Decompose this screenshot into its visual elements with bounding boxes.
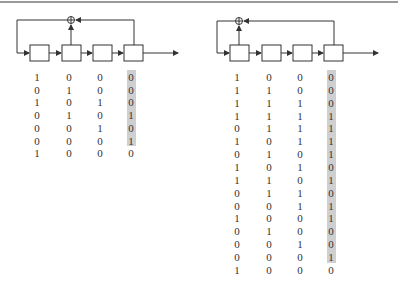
right-lfsr [217, 18, 378, 62]
table-cell: 1 [263, 174, 275, 186]
left-stage-3 [93, 45, 112, 61]
table-cell: 0 [63, 71, 75, 83]
table-cell: 0 [325, 225, 337, 237]
table-cell: 1 [231, 84, 243, 96]
table-cell: 1 [294, 187, 306, 199]
table-cell: 1 [294, 122, 306, 134]
table-cell: 0 [294, 174, 306, 186]
left-stage-2 [62, 45, 81, 61]
table-cell: 1 [231, 161, 243, 173]
table-cell: 1 [325, 251, 337, 263]
table-cell: 1 [294, 110, 306, 122]
table-cell: 0 [63, 96, 75, 108]
table-cell: 0 [263, 200, 275, 212]
table-cell: 1 [294, 97, 306, 109]
table-cell: 1 [231, 110, 243, 122]
table-cell: 0 [63, 135, 75, 147]
table-cell: 0 [94, 71, 106, 83]
table-cell: 0 [125, 84, 137, 96]
table-cell: 1 [31, 96, 43, 108]
table-cell: 1 [125, 109, 137, 121]
table-cell: 0 [231, 251, 243, 263]
table-cell: 1 [325, 135, 337, 147]
table-cell: 0 [125, 122, 137, 134]
table-cell: 0 [325, 71, 337, 83]
table-cell: 0 [294, 225, 306, 237]
table-cell: 1 [325, 212, 337, 224]
table-cell: 0 [63, 122, 75, 134]
table-cell: 1 [231, 135, 243, 147]
table-cell: 0 [263, 264, 275, 276]
table-cell: 1 [94, 96, 106, 108]
table-cell: 0 [63, 147, 75, 159]
table-cell: 1 [325, 148, 337, 160]
table-cell: 1 [63, 109, 75, 121]
table-cell: 0 [294, 148, 306, 160]
table-cell: 1 [63, 84, 75, 96]
table-cell: 1 [294, 200, 306, 212]
table-cell: 0 [294, 212, 306, 224]
table-cell: 0 [231, 238, 243, 250]
table-cell: 0 [94, 147, 106, 159]
table-cell: 1 [231, 212, 243, 224]
table-cell: 1 [263, 122, 275, 134]
table-cell: 0 [94, 135, 106, 147]
table-cell: 1 [125, 135, 137, 147]
left-stage-4 [124, 45, 143, 61]
table-cell: 0 [325, 187, 337, 199]
table-cell: 0 [294, 84, 306, 96]
table-cell: 0 [94, 109, 106, 121]
table-cell: 0 [231, 225, 243, 237]
table-cell: 0 [125, 147, 137, 159]
table-cell: 1 [263, 110, 275, 122]
table-cell: 0 [231, 187, 243, 199]
table-cell: 0 [294, 251, 306, 263]
table-cell: 0 [94, 84, 106, 96]
table-cell: 1 [263, 97, 275, 109]
table-cell: 1 [294, 135, 306, 147]
table-cell: 1 [325, 200, 337, 212]
table-cell: 1 [325, 174, 337, 186]
table-cell: 0 [263, 161, 275, 173]
table-cell: 1 [263, 187, 275, 199]
table-cell: 0 [325, 84, 337, 96]
table-cell: 0 [263, 135, 275, 147]
table-cell: 0 [325, 238, 337, 250]
table-cell: 0 [231, 122, 243, 134]
table-cell: 0 [325, 161, 337, 173]
table-cell: 1 [231, 97, 243, 109]
table-cell: 1 [263, 84, 275, 96]
left-lfsr [17, 17, 178, 62]
table-cell: 1 [294, 161, 306, 173]
right-stage-4 [324, 45, 343, 61]
table-cell: 0 [263, 212, 275, 224]
table-cell: 0 [31, 84, 43, 96]
table-cell: 1 [325, 110, 337, 122]
table-cell: 0 [31, 122, 43, 134]
right-stage-3 [293, 45, 312, 61]
table-cell: 0 [125, 71, 137, 83]
table-cell: 0 [125, 96, 137, 108]
table-cell: 0 [294, 71, 306, 83]
table-cell: 0 [263, 238, 275, 250]
table-cell: 0 [263, 71, 275, 83]
table-cell: 0 [325, 97, 337, 109]
table-cell: 1 [325, 122, 337, 134]
table-cell: 1 [294, 238, 306, 250]
table-cell: 1 [263, 225, 275, 237]
right-stage-1 [230, 45, 249, 61]
table-cell: 1 [94, 122, 106, 134]
lfsr-diagrams [0, 0, 398, 286]
table-cell: 1 [231, 174, 243, 186]
table-cell: 0 [325, 264, 337, 276]
table-cell: 0 [31, 135, 43, 147]
left-stage-1 [30, 45, 49, 61]
table-cell: 1 [231, 71, 243, 83]
table-cell: 1 [31, 147, 43, 159]
table-cell: 0 [231, 200, 243, 212]
table-cell: 1 [31, 71, 43, 83]
right-stage-2 [262, 45, 281, 61]
table-cell: 0 [263, 251, 275, 263]
table-cell: 1 [263, 148, 275, 160]
table-cell: 0 [231, 148, 243, 160]
